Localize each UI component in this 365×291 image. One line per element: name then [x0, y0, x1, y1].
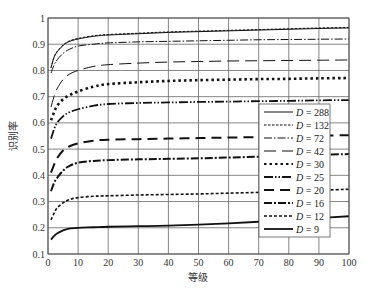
legend-label: D = 288 — [295, 107, 329, 118]
y-tick-label: 0.6 — [33, 117, 46, 128]
x-tick-label: 90 — [314, 257, 324, 268]
legend-label: D = 16 — [295, 198, 324, 209]
legend-label: D = 132 — [295, 120, 329, 131]
y-tick-label: 0.4 — [33, 170, 46, 181]
legend-label: D = 25 — [295, 172, 324, 183]
y-tick-label: 0.1 — [33, 249, 46, 260]
legend-label: D = 9 — [295, 224, 319, 235]
x-tick-label: 0 — [46, 257, 51, 268]
x-tick-label: 40 — [163, 257, 173, 268]
line-chart: 0102030405060708090100 0.10.20.30.40.50.… — [0, 0, 365, 291]
y-axis-label: 识别率 — [7, 121, 19, 151]
legend-label: D = 42 — [295, 146, 324, 157]
x-tick-label: 50 — [194, 257, 204, 268]
series-line-42 — [51, 60, 349, 107]
legend-label: D = 12 — [295, 211, 324, 222]
legend-label: D = 30 — [295, 159, 324, 170]
legend-label: D = 72 — [295, 133, 324, 144]
y-tick-label: 0.3 — [33, 196, 46, 207]
x-tick-label: 100 — [342, 257, 357, 268]
y-tick-label: 0.9 — [33, 39, 46, 50]
x-tick-label: 20 — [103, 257, 113, 268]
y-tick-label: 0.2 — [33, 222, 46, 233]
x-tick-label: 30 — [133, 257, 143, 268]
y-tick-label: 0.7 — [33, 91, 46, 102]
legend: D = 288D = 132D = 72D = 42D = 30D = 25D … — [259, 104, 330, 237]
y-tick-labels: 0.10.20.30.40.50.60.70.80.91 — [33, 13, 46, 260]
x-tick-labels: 0102030405060708090100 — [46, 257, 357, 268]
x-axis-label: 等级 — [188, 271, 208, 283]
x-tick-label: 80 — [284, 257, 294, 268]
legend-label: D = 20 — [295, 185, 324, 196]
y-tick-label: 1 — [40, 13, 45, 24]
x-tick-label: 60 — [224, 257, 234, 268]
x-tick-label: 10 — [73, 257, 83, 268]
y-tick-label: 0.5 — [33, 144, 46, 155]
y-tick-label: 0.8 — [33, 65, 46, 76]
x-tick-label: 70 — [254, 257, 264, 268]
